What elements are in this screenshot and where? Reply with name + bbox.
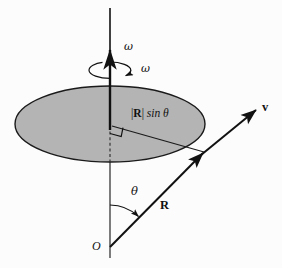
omega-rotation-label: ω — [141, 63, 150, 74]
abs-bar-close: | — [142, 107, 144, 119]
omega-vector-label: ω — [124, 41, 133, 52]
sin-theta-text: sin θ — [147, 107, 169, 119]
perpendicular-distance-label: |R| sin θ — [131, 108, 169, 120]
theta-angle-label: θ — [131, 186, 138, 198]
origin-label: O — [92, 240, 101, 252]
physics-diagram-canvas: ω ω |R| sin θ θ R v O — [0, 0, 282, 268]
abs-R-symbol: R — [133, 107, 141, 119]
velocity-vector-label: v — [262, 101, 268, 114]
diagram-svg — [0, 0, 282, 268]
rotation-direction-arc — [89, 62, 110, 78]
velocity-vector-arrow — [201, 110, 256, 155]
theta-angle-arc — [110, 205, 139, 217]
position-vector-arrow — [110, 153, 203, 247]
position-vector-label: R — [160, 199, 169, 212]
rotation-direction-arc-right — [110, 62, 131, 76]
